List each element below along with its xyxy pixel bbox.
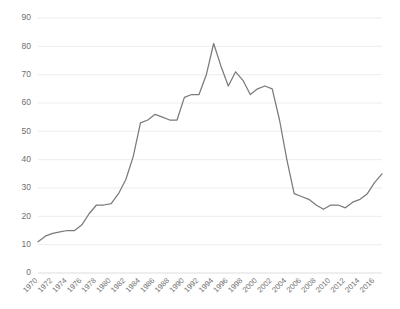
y-tick-label: 30 [22,182,32,192]
x-tick-label: 1990 [167,276,185,294]
x-tick-label: 2002 [255,276,273,294]
x-tick-label: 1974 [50,276,68,294]
x-tick-label: 2012 [329,276,347,294]
x-tick-label: 1980 [94,276,112,294]
x-tick-label: 2000 [241,276,259,294]
x-tick-label: 1986 [138,276,156,294]
x-tick-label: 1970 [21,276,39,294]
x-tick-label: 1994 [197,276,215,294]
x-tick-label: 1992 [182,276,200,294]
y-axis-tick-labels: 0102030405060708090 [22,12,32,277]
x-tick-label: 2006 [285,276,303,294]
x-tick-label: 2008 [299,276,317,294]
x-tick-label: 1978 [80,276,98,294]
data-series [38,44,382,242]
gridlines [38,18,382,273]
x-tick-label: 1976 [65,276,83,294]
x-tick-label: 1982 [109,276,127,294]
x-tick-label: 1988 [153,276,171,294]
y-tick-label: 0 [26,267,31,277]
x-tick-label: 2010 [314,276,332,294]
x-tick-label: 1998 [226,276,244,294]
data-line [38,44,382,242]
y-tick-label: 20 [22,211,32,221]
x-tick-label: 1972 [36,276,54,294]
y-tick-label: 60 [22,97,32,107]
x-axis-tick-labels: 1970197219741976197819801982198419861988… [21,276,376,294]
y-tick-label: 70 [22,69,32,79]
x-tick-label: 1996 [211,276,229,294]
y-tick-label: 80 [22,41,32,51]
x-tick-label: 2004 [270,276,288,294]
y-tick-label: 10 [22,239,32,249]
line-chart: 0102030405060708090 19701972197419761978… [0,0,400,309]
chart-container: 0102030405060708090 19701972197419761978… [0,0,400,309]
x-tick-label: 1984 [124,276,142,294]
y-tick-label: 90 [22,12,32,22]
x-tick-label: 2014 [343,276,361,294]
x-tick-label: 2016 [358,276,376,294]
y-tick-label: 40 [22,154,32,164]
y-tick-label: 50 [22,126,32,136]
